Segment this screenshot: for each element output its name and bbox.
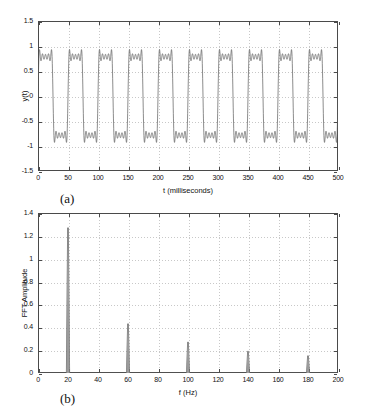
x-axis-tick-label: 180	[302, 376, 313, 384]
x-axis-tick-label: 50	[64, 174, 71, 182]
x-axis-tick-label: 120	[212, 376, 223, 384]
y-axis-tick-label: -0.5	[0, 117, 33, 125]
x-axis-title-a: t (milliseconds)	[163, 186, 213, 195]
x-axis-tick-label: 250	[182, 174, 193, 182]
x-axis-tick-label: 200	[332, 376, 343, 384]
panel-fft-spectrum: 02040608010012014016018020000.20.40.60.8…	[0, 205, 366, 409]
x-axis-tick-label: 40	[94, 376, 101, 384]
x-axis-tick-label: 80	[154, 376, 161, 384]
x-axis-tick-label: 500	[332, 174, 343, 182]
x-axis-tick-label: 300	[212, 174, 223, 182]
y-axis-tick-label: 0	[0, 369, 33, 377]
x-axis-tick-label: 150	[122, 174, 133, 182]
y-axis-title-a: y(t)	[20, 76, 29, 116]
y-axis-tick-label: 0.2	[0, 346, 33, 354]
x-axis-tick-label: 160	[272, 376, 283, 384]
y-axis-title-b: FFT Amplitude	[20, 253, 29, 333]
figure-container: 050100150200250300350400450500-1.5-1-0.5…	[0, 0, 366, 409]
y-axis-tick-label: 1.2	[0, 232, 33, 240]
y-axis-tick-label: 0.5	[0, 67, 33, 75]
x-axis-tick-label: 140	[242, 376, 253, 384]
y-axis-tick-label: 1.5	[0, 17, 33, 25]
y-axis-tick-label: -1	[0, 142, 33, 150]
x-axis-title-b: f (Hz)	[179, 388, 197, 397]
y-axis-tick-label: -1.5	[0, 167, 33, 175]
x-axis-tick-label: 20	[64, 376, 71, 384]
x-axis-tick-label: 400	[272, 174, 283, 182]
panel-time-domain: 050100150200250300350400450500-1.5-1-0.5…	[0, 0, 366, 205]
panel-label-b: (b)	[60, 391, 75, 407]
y-axis-tick-label: 1.4	[0, 209, 33, 217]
waveform-path	[38, 50, 338, 143]
x-axis-tick-label: 0	[36, 376, 40, 384]
x-axis-tick-label: 0	[36, 174, 40, 182]
x-axis-tick-label: 60	[124, 376, 131, 384]
x-axis-tick-label: 200	[152, 174, 163, 182]
x-axis-tick-label: 100	[182, 376, 193, 384]
x-axis-tick-label: 100	[92, 174, 103, 182]
y-axis-tick-label: 1	[0, 42, 33, 50]
x-axis-tick-label: 350	[242, 174, 253, 182]
x-axis-tick-label: 450	[302, 174, 313, 182]
